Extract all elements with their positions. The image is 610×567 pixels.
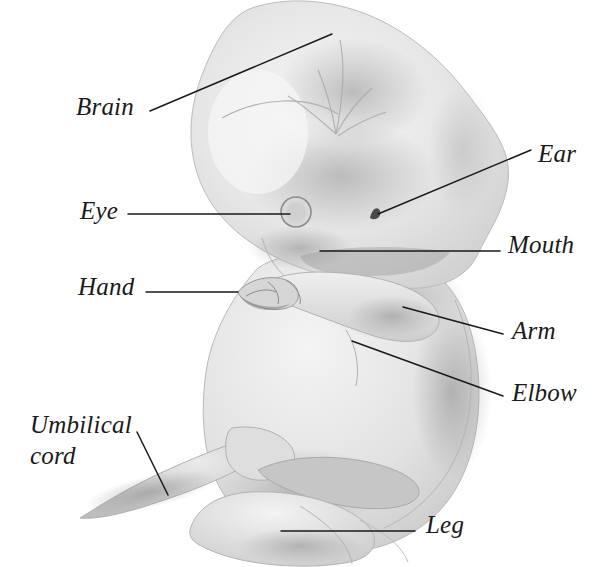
- label-brain: Brain: [76, 92, 134, 122]
- label-leg: Leg: [426, 510, 464, 540]
- label-elbow: Elbow: [512, 378, 577, 408]
- label-umbilical-line1: Umbilical: [30, 410, 170, 441]
- eye-group: [281, 197, 311, 227]
- label-mouth: Mouth: [508, 230, 574, 260]
- head-group: [191, 1, 509, 288]
- head-highlight: [208, 70, 308, 194]
- label-umbilical-line2: cord: [30, 441, 170, 472]
- foot-shadow: [238, 528, 362, 564]
- label-umbilical-cord: Umbilical cord: [30, 410, 170, 471]
- label-arm: Arm: [512, 316, 556, 346]
- label-ear: Ear: [538, 139, 576, 169]
- arm-shadow: [348, 296, 436, 336]
- eye-inner: [286, 202, 306, 222]
- embryo-figure: Brain Eye Hand Umbilical cord Ear Mouth …: [0, 0, 610, 567]
- label-hand: Hand: [78, 272, 134, 302]
- label-eye: Eye: [80, 196, 118, 226]
- head-shadow-right: [428, 86, 496, 214]
